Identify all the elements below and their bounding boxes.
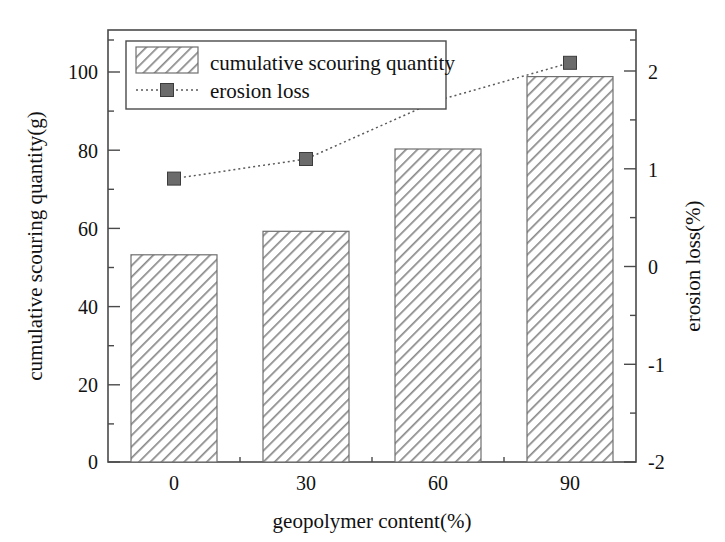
legend-label-erosion-loss: erosion loss [210, 79, 310, 103]
left-tick-label-60: 60 [78, 218, 98, 240]
x-tick-label-90: 90 [560, 472, 580, 494]
right-tick-label-neg2: -2 [648, 451, 665, 473]
right-tick-label-0: 0 [648, 256, 658, 278]
bar-30 [263, 231, 349, 462]
left-tick-label-20: 20 [78, 374, 98, 396]
erosion-loss-marker-0 [168, 172, 181, 185]
right-tick-label-neg1: -1 [648, 354, 665, 376]
bar-0 [131, 255, 217, 462]
bar-60 [395, 149, 481, 462]
left-tick-label-80: 80 [78, 140, 98, 162]
chart-canvas: 0 20 40 60 80 100 -2 -1 0 1 2 [0, 0, 725, 542]
legend-label-cumulative-scouring-quantity: cumulative scouring quantity [210, 51, 455, 75]
left-axis-title: cumulative scouring quantity(g) [23, 111, 47, 380]
chart-container: 0 20 40 60 80 100 -2 -1 0 1 2 [0, 0, 725, 542]
x-tick-label-60: 60 [428, 472, 448, 494]
left-tick-label-0: 0 [88, 451, 98, 473]
left-tick-label-40: 40 [78, 296, 98, 318]
x-tick-label-30: 30 [296, 472, 316, 494]
bar-90 [527, 77, 613, 462]
left-tick-label-100: 100 [68, 61, 98, 83]
chart-legend: cumulative scouring quantity erosion los… [126, 41, 455, 109]
right-tick-label-2: 2 [648, 61, 658, 83]
legend-swatch-marker [161, 84, 174, 97]
right-axis-title: erosion loss(%) [681, 200, 705, 331]
legend-swatch-bar [136, 47, 198, 73]
erosion-loss-marker-90 [564, 56, 577, 69]
right-tick-label-1: 1 [648, 159, 658, 181]
bottom-axis-title: geopolymer content(%) [273, 509, 472, 533]
x-tick-label-0: 0 [169, 472, 179, 494]
erosion-loss-marker-30 [300, 153, 313, 166]
